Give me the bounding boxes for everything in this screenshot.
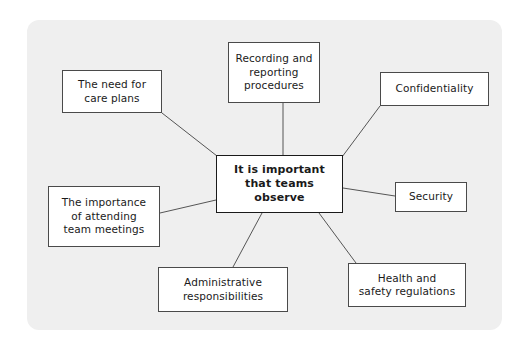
node-label: Administrative responsibilities [183, 276, 263, 303]
node-center-it-is-important-that-teams-observe[interactable]: It is important that teams observe [216, 155, 343, 213]
node-care-plans[interactable]: The need for care plans [62, 70, 162, 113]
connector-health-safety-to-center [319, 213, 356, 263]
diagram-canvas: The need for care plans Recording and re… [0, 0, 530, 347]
node-health-safety-regulations[interactable]: Health and safety regulations [348, 263, 466, 307]
node-confidentiality[interactable]: Confidentiality [380, 72, 489, 106]
node-recording-reporting-procedures[interactable]: Recording and reporting procedures [228, 42, 320, 103]
connector-administrative-to-center [233, 213, 262, 267]
node-security[interactable]: Security [395, 182, 467, 212]
connector-security-to-center [343, 188, 395, 196]
node-label: Health and safety regulations [359, 272, 455, 299]
node-label: The need for care plans [78, 78, 146, 105]
node-label: Security [409, 190, 453, 204]
node-team-meetings[interactable]: The importance of attending team meeting… [48, 186, 160, 247]
connector-confidentiality-to-center [342, 106, 380, 157]
node-label: Confidentiality [395, 82, 473, 96]
connector-care-plans-to-center [162, 113, 217, 156]
connector-team-meetings-to-center [160, 200, 216, 213]
node-label: Recording and reporting procedures [236, 52, 313, 93]
node-label: It is important that teams observe [234, 163, 325, 205]
node-label: The importance of attending team meeting… [62, 196, 146, 237]
node-administrative-responsibilities[interactable]: Administrative responsibilities [158, 267, 288, 312]
